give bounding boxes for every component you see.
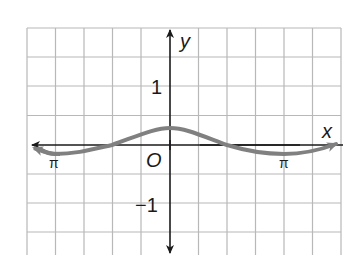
origin-label: O bbox=[146, 149, 162, 171]
y-axis-label: y bbox=[178, 30, 191, 52]
graph-canvas: y x O 1 −1 π π bbox=[0, 0, 348, 255]
y-tick-label-1: 1 bbox=[151, 76, 162, 98]
x-tick-label-neg-pi: π bbox=[49, 155, 59, 171]
axes bbox=[32, 30, 343, 253]
y-tick-label-neg-1: −1 bbox=[135, 194, 158, 216]
grid bbox=[27, 28, 341, 255]
x-axis-label: x bbox=[321, 120, 333, 142]
x-tick-label-pi: π bbox=[279, 155, 289, 171]
